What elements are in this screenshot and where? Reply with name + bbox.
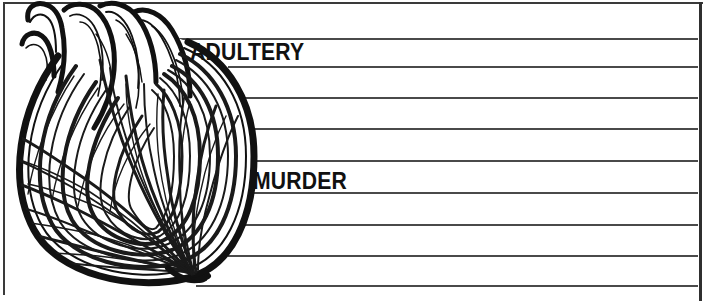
ruled-line-2	[228, 66, 698, 68]
frame-left-border	[3, 2, 5, 295]
ruled-line-4	[250, 128, 698, 130]
label-adultery: ADULTERY	[190, 41, 304, 64]
ruled-line-3	[243, 97, 698, 99]
label-murder: MURDER	[253, 170, 347, 193]
paper-frame	[0, 0, 707, 305]
ruled-line-5	[252, 160, 698, 162]
frame-top-border	[3, 2, 703, 4]
ruled-line-7	[243, 224, 698, 226]
frame-right-border	[699, 2, 702, 301]
ruled-line-9	[196, 285, 698, 287]
illustration-canvas: ADULTERY MURDER	[0, 0, 707, 305]
ruled-line-8	[228, 255, 698, 257]
